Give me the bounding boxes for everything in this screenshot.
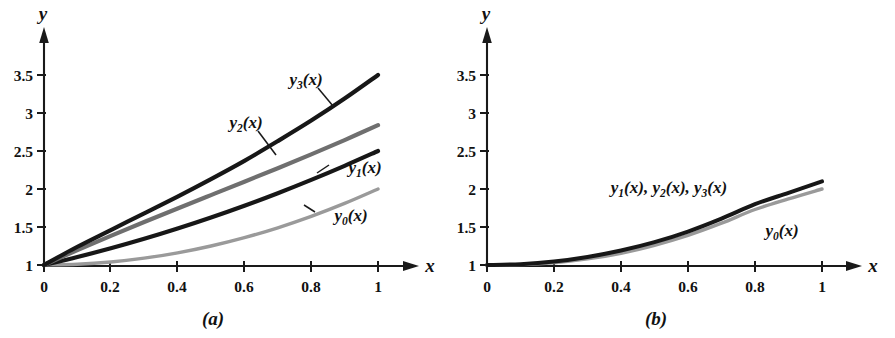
y-tick-label-2: 2 xyxy=(25,181,33,198)
y-tick-label-1-5: 1.5 xyxy=(14,219,34,236)
x-axis-arrow-icon xyxy=(403,261,419,271)
y-tick-label-1: 1 xyxy=(468,257,476,274)
y-tick-label-3-5: 3.5 xyxy=(457,67,477,84)
y0-label-suffix: (x) xyxy=(348,206,368,225)
leader-y0 xyxy=(304,205,315,212)
panel-caption-a: (a) xyxy=(202,308,224,330)
y-tick-label-1: 1 xyxy=(25,257,33,274)
x-tick-label-0-4: 0.4 xyxy=(611,278,631,295)
y0-label: y0(x) xyxy=(763,221,798,242)
x-tick-label-0-2: 0.2 xyxy=(100,278,120,295)
y-tick-label-2: 2 xyxy=(468,181,476,198)
y3-label-suffix: (x) xyxy=(303,70,323,89)
curve-y1 xyxy=(44,151,378,265)
leader-y3 xyxy=(318,88,333,106)
x-tick-label-0-8: 0.8 xyxy=(745,278,765,295)
y3-label: y3(x) xyxy=(287,70,322,91)
x-tick-label-0-6: 0.6 xyxy=(234,278,254,295)
curve-y2 xyxy=(44,125,378,265)
y2-label-suffix: (x) xyxy=(243,113,263,132)
curves-a xyxy=(44,75,378,265)
panel-a: 3.5 3 2.5 2 1.5 1 0 0.2 0.4 0.6 0.8 1 xyxy=(0,0,447,338)
y-axis-b xyxy=(482,27,492,268)
x-axis-label: x xyxy=(424,255,435,276)
x-tick-label-0-6: 0.6 xyxy=(678,278,698,295)
y2-label-base: y xyxy=(227,113,237,132)
y-tick-label-3: 3 xyxy=(468,105,476,122)
y3-label-base: y xyxy=(287,70,297,89)
y-axis-a xyxy=(39,27,49,268)
panel-b: 3.5 3 2.5 2 1.5 1 0 0.2 0.4 0.6 0.8 1 y … xyxy=(447,0,894,338)
y-tick-label-2-5: 2.5 xyxy=(457,143,477,160)
x-tick-label-0: 0 xyxy=(40,278,48,295)
y1-label-base: y xyxy=(346,158,356,177)
y123-label: y1(x), y2(x), y3(x) xyxy=(609,178,727,199)
y-tick-label-1-5: 1.5 xyxy=(457,219,477,236)
curve-y3 xyxy=(44,75,378,265)
x-axis-label: x xyxy=(867,255,878,276)
y-axis-label: y xyxy=(480,3,491,24)
panel-a-plot: 3.5 3 2.5 2 1.5 1 0 0.2 0.4 0.6 0.8 1 xyxy=(0,0,447,338)
y123-base-1: y xyxy=(609,178,619,197)
x-axis-arrow-icon xyxy=(846,261,862,271)
x-tick-label-0-4: 0.4 xyxy=(167,278,187,295)
panel-caption-b: (b) xyxy=(645,308,667,330)
y0-label-base: y xyxy=(763,221,773,240)
y-tick-label-2-5: 2.5 xyxy=(14,143,34,160)
y-tick-label-3-5: 3.5 xyxy=(14,67,34,84)
y2-label: y2(x) xyxy=(227,113,262,134)
y0-label-suffix: (x) xyxy=(779,221,799,240)
x-tick-label-1: 1 xyxy=(818,278,826,295)
y-tick-label-3: 3 xyxy=(25,105,33,122)
y-axis-arrow-icon xyxy=(39,27,49,43)
x-tick-label-0: 0 xyxy=(483,278,491,295)
y-axis-label: y xyxy=(37,3,48,24)
y1-label: y1(x) xyxy=(346,158,381,179)
y0-label: y0(x) xyxy=(332,206,367,227)
x-tick-label-0-2: 0.2 xyxy=(544,278,564,295)
y-axis-arrow-icon xyxy=(482,27,492,43)
y1-label-suffix: (x) xyxy=(362,158,382,177)
figure-root: 3.5 3 2.5 2 1.5 1 0 0.2 0.4 0.6 0.8 1 xyxy=(0,0,895,338)
y0-label-base: y xyxy=(332,206,342,225)
x-tick-label-0-8: 0.8 xyxy=(301,278,321,295)
panel-b-plot: 3.5 3 2.5 2 1.5 1 0 0.2 0.4 0.6 0.8 1 y … xyxy=(447,0,895,338)
x-tick-label-1: 1 xyxy=(374,278,382,295)
